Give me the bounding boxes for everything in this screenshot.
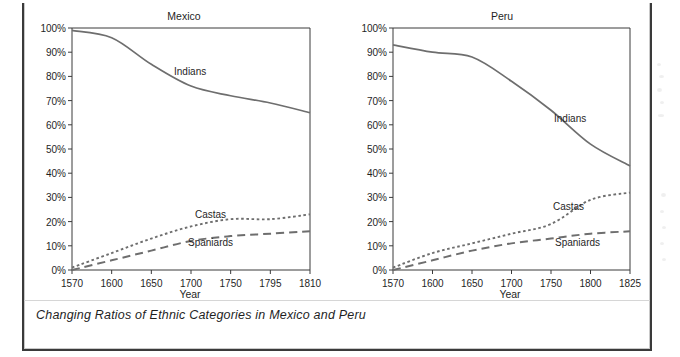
scan-artifact bbox=[657, 88, 662, 92]
chart-svg bbox=[38, 0, 338, 300]
y-axis-tick-label: 70% bbox=[28, 95, 66, 106]
plot-frame bbox=[72, 28, 310, 270]
y-axis-tick-label: 10% bbox=[349, 240, 387, 251]
plot-area-peru: 0%10%20%30%40%50%60%70%80%90%100%1570160… bbox=[358, 0, 658, 300]
y-axis-tick-label: 0% bbox=[349, 265, 387, 276]
scan-artifact bbox=[660, 242, 664, 245]
y-axis-tick-label: 50% bbox=[28, 144, 66, 155]
series-label-spaniards: Spaniards bbox=[555, 237, 600, 248]
y-axis-tick-label: 80% bbox=[28, 71, 66, 82]
scan-artifact bbox=[659, 75, 664, 78]
series-label-castas: Castas bbox=[553, 201, 584, 212]
chart-svg bbox=[358, 0, 658, 300]
scan-artifact bbox=[658, 114, 664, 117]
y-axis-tick-label: 20% bbox=[28, 216, 66, 227]
y-axis-tick-label: 30% bbox=[349, 192, 387, 203]
scan-artifact bbox=[662, 258, 666, 261]
series-label-indians: Indians bbox=[174, 66, 206, 77]
y-axis-tick-label: 90% bbox=[28, 47, 66, 58]
series-label-spaniards: Spaniards bbox=[188, 237, 233, 248]
figure-caption: Changing Ratios of Ethnic Categories in … bbox=[36, 308, 366, 322]
y-axis-tick-label: 30% bbox=[28, 192, 66, 203]
series-label-indians: Indians bbox=[554, 113, 586, 124]
x-axis-title-mexico: Year bbox=[40, 288, 340, 300]
y-axis-tick-label: 40% bbox=[349, 168, 387, 179]
scan-artifact bbox=[657, 63, 661, 66]
scan-artifact bbox=[662, 226, 666, 229]
y-axis-tick-label: 100% bbox=[349, 23, 387, 34]
x-axis-title-peru: Year bbox=[360, 288, 660, 300]
y-axis-tick-label: 80% bbox=[349, 71, 387, 82]
y-axis-tick-label: 0% bbox=[28, 265, 66, 276]
y-axis-tick-label: 10% bbox=[28, 240, 66, 251]
y-axis-tick-label: 100% bbox=[28, 23, 66, 34]
y-axis-tick-label: 20% bbox=[349, 216, 387, 227]
caption-divider bbox=[24, 300, 650, 301]
figure-page: Changing Ratios of Ethnic Categories in … bbox=[0, 0, 680, 357]
y-axis-tick-label: 50% bbox=[349, 144, 387, 155]
scan-artifact bbox=[660, 101, 664, 104]
y-axis-tick-label: 90% bbox=[349, 47, 387, 58]
series-line-castas bbox=[393, 193, 630, 268]
chart-panel-mexico: Mexico 0%10%20%30%40%50%60%70%80%90%100%… bbox=[38, 0, 338, 300]
y-axis-tick-label: 60% bbox=[28, 119, 66, 130]
y-axis-tick-label: 60% bbox=[349, 119, 387, 130]
chart-panel-peru: Peru 0%10%20%30%40%50%60%70%80%90%100%15… bbox=[358, 0, 658, 300]
series-line-indians bbox=[393, 45, 630, 166]
y-axis-tick-label: 70% bbox=[349, 95, 387, 106]
series-label-castas: Castas bbox=[195, 209, 226, 220]
y-axis-tick-label: 40% bbox=[28, 168, 66, 179]
scan-artifact bbox=[660, 210, 664, 213]
scan-artifact bbox=[661, 193, 666, 197]
plot-frame bbox=[393, 28, 630, 270]
plot-area-mexico: 0%10%20%30%40%50%60%70%80%90%100%1570160… bbox=[38, 0, 338, 300]
